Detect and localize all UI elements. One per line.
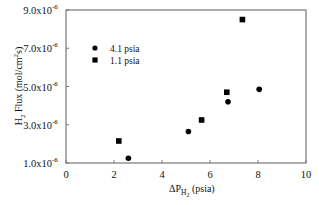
x-axis-title: ΔPH2 (psia) [169, 183, 215, 198]
y-tick-exponent: -6 [52, 80, 58, 88]
data-points [116, 17, 262, 161]
x-tick-label: 6 [207, 169, 212, 180]
legend: 4.1 psia1.1 psia [92, 44, 140, 66]
data-point-square [116, 138, 122, 144]
y-tick-exponent: -6 [52, 3, 58, 11]
x-tick-label: 10 [301, 169, 312, 180]
y-tick-exponent: -6 [52, 118, 58, 126]
x-tick-label: 0 [63, 169, 68, 180]
legend-marker-square [92, 57, 97, 62]
plot-frame [66, 10, 306, 163]
y-tick-label: 3.0x10 [23, 120, 52, 131]
x-tick-label: 4 [159, 169, 165, 180]
data-point-circle [186, 129, 192, 135]
y-tick-label: 5.0x10 [23, 82, 52, 93]
y-tick-label: 7.0x10 [23, 43, 52, 54]
scatter-chart: 02468101.0x10-63.0x10-65.0x10-67.0x10-69… [0, 0, 319, 205]
legend-label: 4.1 psia [110, 44, 140, 54]
legend-marker-circle [92, 45, 97, 50]
data-point-square [240, 17, 246, 23]
data-point-circle [256, 87, 262, 93]
y-tick-label: 1.0x10 [23, 158, 52, 169]
data-point-square [224, 89, 230, 95]
data-point-circle [225, 99, 231, 105]
legend-label: 1.1 psia [110, 56, 140, 66]
y-tick-exponent: -6 [52, 41, 58, 49]
data-point-circle [126, 155, 132, 161]
y-tick-label: 9.0x10 [23, 5, 52, 16]
x-tick-label: 2 [111, 169, 116, 180]
x-tick-label: 8 [255, 169, 260, 180]
axes: 02468101.0x10-63.0x10-65.0x10-67.0x10-69… [23, 3, 311, 180]
y-tick-exponent: -6 [52, 156, 58, 164]
data-point-square [199, 117, 205, 123]
svg-text:ΔPH2 (psia): ΔPH2 (psia) [169, 183, 215, 198]
